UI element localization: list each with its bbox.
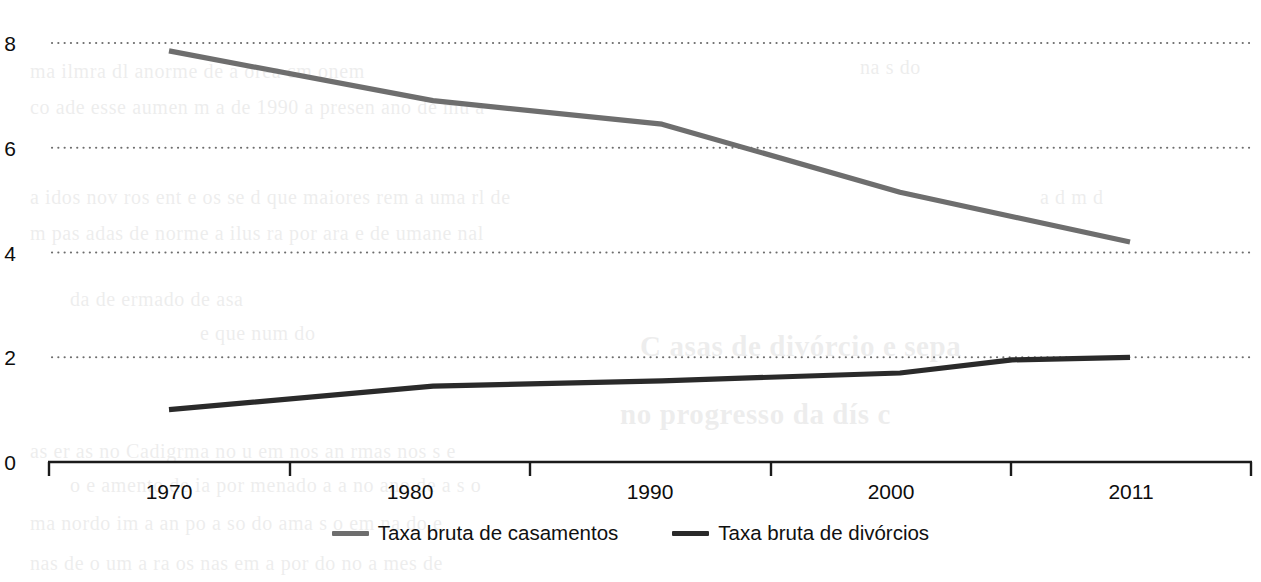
- x-axis: [48, 462, 1252, 476]
- x-axis-tick-label: 2000: [831, 481, 951, 502]
- legend-item-casamentos[interactable]: Taxa bruta de casamentos: [332, 523, 618, 544]
- series-line-taxa-bruta-de-divorcios: [169, 357, 1130, 409]
- legend-item-label: Taxa bruta de divórcios: [718, 523, 929, 544]
- line-chart: 8 6 4 2 0 1970 1980 1990 2000 2011: [0, 0, 1261, 582]
- x-axis-tick-label: 1970: [109, 481, 229, 502]
- legend-item-label: Taxa bruta de casamentos: [378, 523, 618, 544]
- x-axis-tick-label: 1980: [350, 481, 470, 502]
- series-line-taxa-bruta-de-casamentos: [169, 51, 1130, 242]
- x-axis-tick-label: 2011: [1071, 481, 1191, 502]
- chart-legend: Taxa bruta de casamentos Taxa bruta de d…: [0, 523, 1261, 544]
- plot-area: [0, 0, 1261, 500]
- x-axis-tick-label: 1990: [590, 481, 710, 502]
- gridlines: [52, 43, 1252, 357]
- legend-item-divorcios[interactable]: Taxa bruta de divórcios: [672, 523, 929, 544]
- legend-swatch-line-icon: [672, 531, 709, 536]
- legend-swatch-line-icon: [332, 531, 369, 536]
